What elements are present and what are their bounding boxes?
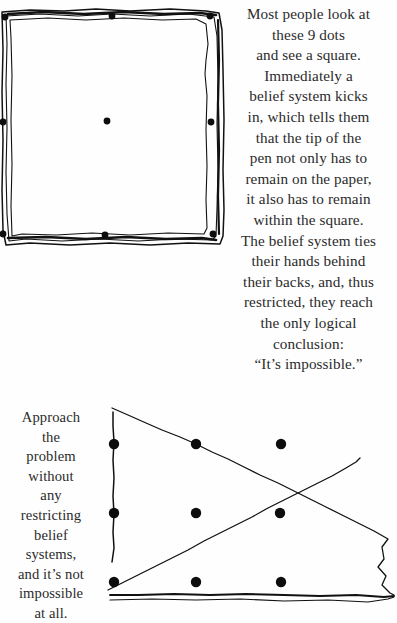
bottom-paragraph: Approach the problem without any restric… bbox=[2, 408, 100, 623]
square-outline-path-outer bbox=[2, 9, 224, 245]
solution-dot-middle-right bbox=[275, 508, 285, 518]
nine-dots-square-figure bbox=[0, 0, 232, 262]
solution-dot-middle-center bbox=[191, 508, 201, 518]
solution-line-horizontal bbox=[110, 594, 394, 597]
solution-lines-group bbox=[108, 408, 394, 602]
solution-line-vertical bbox=[112, 412, 114, 562]
dot-bottom-right bbox=[210, 231, 217, 238]
square-outline-path-thick-right bbox=[218, 20, 219, 234]
dot-top-right bbox=[207, 13, 214, 20]
square-outline-path-middle bbox=[6, 14, 218, 241]
solution-dot-bottom-right bbox=[276, 577, 286, 587]
dot-bottom-left bbox=[0, 231, 6, 238]
illustration-page: Most people look at these 9 dots and see… bbox=[0, 0, 397, 623]
dot-middle-center bbox=[104, 118, 111, 125]
solution-line-ascending-diagonal bbox=[108, 458, 360, 590]
solution-dot-top-right bbox=[276, 439, 286, 449]
solution-dot-bottom-center bbox=[191, 577, 201, 587]
square-outline-group bbox=[2, 9, 224, 245]
solution-dot-middle-left bbox=[109, 508, 119, 518]
top-paragraph: Most people look at these 9 dots and see… bbox=[222, 4, 395, 375]
solution-dot-top-left bbox=[109, 439, 119, 449]
square-outline-path-inner bbox=[10, 18, 208, 236]
solution-dot-bottom-left bbox=[109, 577, 119, 587]
dot-top-center bbox=[109, 13, 116, 20]
solution-line-horizontal-lower-edge bbox=[110, 597, 394, 602]
nine-dots-solution-figure bbox=[88, 386, 397, 614]
dot-middle-left bbox=[0, 119, 6, 126]
solution-dot-top-center bbox=[191, 439, 201, 449]
nine-dots-square-svg bbox=[0, 0, 232, 262]
dot-bottom-center bbox=[102, 232, 109, 239]
dot-top-left bbox=[2, 14, 9, 21]
dot-middle-right bbox=[208, 119, 215, 126]
nine-dots-group bbox=[0, 13, 216, 239]
nine-dots-solution-svg bbox=[88, 386, 397, 614]
